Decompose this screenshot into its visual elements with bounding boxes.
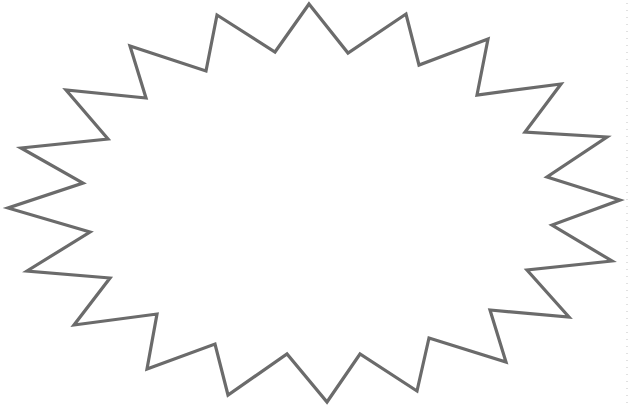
starburst-canvas [0, 0, 635, 409]
dotted-edge-guide [626, 0, 628, 409]
starburst-shape [8, 4, 620, 402]
